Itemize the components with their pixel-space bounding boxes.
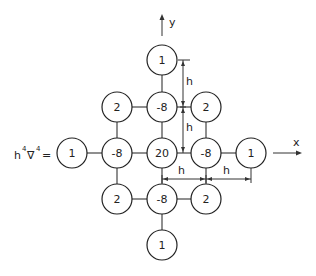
x-axis-label: x <box>293 136 300 149</box>
node-center: 20 <box>147 138 177 168</box>
svg-text:2: 2 <box>114 193 121 206</box>
svg-text:-8: -8 <box>157 101 168 114</box>
svg-text:2: 2 <box>203 101 210 114</box>
svg-text:4: 4 <box>36 145 41 153</box>
node-dm: -8 <box>147 184 177 214</box>
svg-text:2: 2 <box>203 193 210 206</box>
node-bottom: 1 <box>147 230 177 260</box>
node-top: 1 <box>147 45 177 75</box>
svg-text:1: 1 <box>159 54 166 67</box>
svg-text:1: 1 <box>69 147 76 160</box>
node-ul: 2 <box>102 92 132 122</box>
svg-text:∇: ∇ <box>26 149 35 162</box>
node-mr: -8 <box>191 138 221 168</box>
horizontal-spacing-label-1: h <box>178 164 185 177</box>
svg-text:-8: -8 <box>201 147 212 160</box>
svg-text:1: 1 <box>159 239 166 252</box>
svg-text:-8: -8 <box>112 147 123 160</box>
svg-text:2: 2 <box>114 101 121 114</box>
svg-text:h: h <box>14 149 21 162</box>
horizontal-spacing-label-2: h <box>223 164 230 177</box>
node-um: -8 <box>147 92 177 122</box>
node-ur: 2 <box>191 92 221 122</box>
svg-text:20: 20 <box>155 147 169 160</box>
svg-text:=: = <box>42 149 51 162</box>
vertical-spacing-label-2: h <box>186 121 193 134</box>
node-ml: -8 <box>102 138 132 168</box>
y-axis-label: y <box>169 16 176 29</box>
stencil-diagram: 1 2 -8 2 1 -8 20 -8 1 2 -8 2 1 y x h h <box>0 0 316 276</box>
y-axis-arrow-icon <box>160 14 165 36</box>
x-axis-arrow-icon <box>273 151 302 156</box>
svg-text:1: 1 <box>248 147 255 160</box>
node-rr: 1 <box>236 138 266 168</box>
node-ll: 1 <box>57 138 87 168</box>
node-dl: 2 <box>102 184 132 214</box>
node-dr: 2 <box>191 184 221 214</box>
svg-text:-8: -8 <box>157 193 168 206</box>
operator-label: h 4 ∇ 4 = <box>14 145 51 162</box>
vertical-spacing-label-1: h <box>186 75 193 88</box>
